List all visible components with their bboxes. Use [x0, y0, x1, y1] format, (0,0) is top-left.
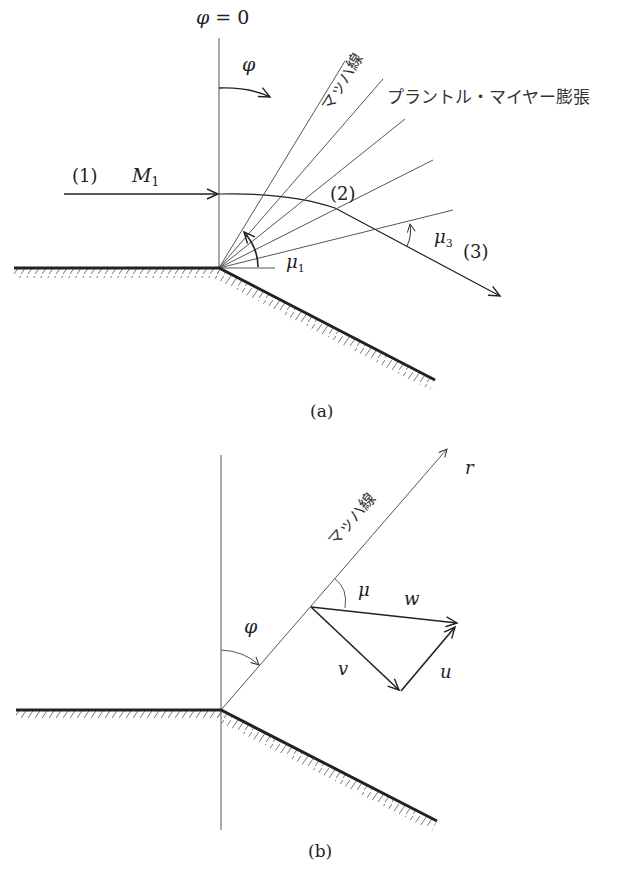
phi-label: φ: [242, 53, 256, 75]
region-1-label: (1): [72, 165, 98, 186]
figure-a: φ=0 φ (1) M1 μ1 μ3 (2) (3) マッハ線 プラントル・マイ…: [14, 6, 590, 421]
mach-line-label: マッハ線: [317, 50, 367, 114]
u-label: u: [440, 661, 452, 682]
wall-hatch-slope: [214, 268, 435, 390]
prandtl-meyer-diagram: φ=0 φ (1) M1 μ1 μ3 (2) (3) マッハ線 プラントル・マイ…: [0, 0, 643, 879]
mach-line-label-b: マッハ線: [324, 489, 380, 550]
phi-angle-arrow-b: [221, 650, 259, 665]
v-label: v: [338, 658, 348, 679]
w-label: w: [404, 588, 420, 609]
phi-angle-arrow: [219, 88, 270, 97]
region-2-label: (2): [330, 183, 356, 204]
figure-b: r マッハ線 φ μ w v u (b): [16, 449, 475, 861]
mu-angle-arc: [335, 579, 346, 608]
mach-1-label: M1: [131, 164, 159, 189]
w-vector: [311, 607, 457, 623]
wall-surface-b: [16, 710, 437, 821]
wall-hatch-slope-b: [216, 710, 437, 831]
mach-line-r: [221, 449, 447, 710]
r-label: r: [465, 457, 475, 478]
phi-label-b: φ: [244, 615, 258, 637]
phi-zero-label: φ=0: [196, 6, 249, 28]
caption-b: (b): [308, 841, 332, 861]
wall-surface: [14, 268, 435, 380]
mach-line: [219, 160, 433, 268]
mu1-label: μ1: [286, 251, 305, 275]
v-vector: [311, 607, 399, 690]
streamline: [219, 194, 500, 296]
mu3-angle-arrow: [407, 224, 411, 246]
caption-a: (a): [310, 401, 333, 421]
expansion-label: プラントル・マイヤー膨張: [387, 87, 590, 107]
region-3-label: (3): [463, 241, 489, 262]
mach-line: [219, 210, 453, 268]
mach-line: [219, 79, 383, 268]
mu3-label: μ3: [434, 226, 453, 250]
mu-label: μ: [358, 579, 370, 600]
